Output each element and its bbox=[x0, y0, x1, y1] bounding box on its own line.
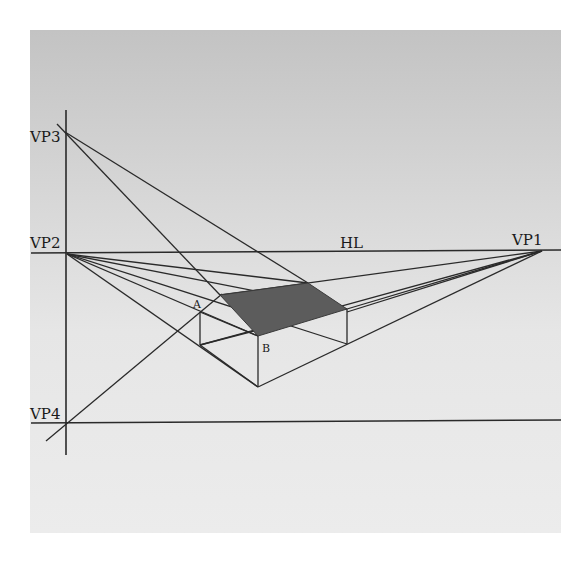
vp4-label: VP4 bbox=[29, 405, 60, 423]
point-a-label: A bbox=[192, 298, 202, 311]
point-b-label: B bbox=[262, 342, 270, 355]
horizon-label: HL bbox=[340, 234, 363, 252]
vp3-label: VP3 bbox=[29, 128, 60, 146]
vp1-label: VP1 bbox=[511, 231, 542, 249]
perspective-diagram: VP3 VP2 VP1 VP4 HL A B bbox=[0, 0, 586, 562]
vp2-label: VP2 bbox=[29, 234, 60, 252]
